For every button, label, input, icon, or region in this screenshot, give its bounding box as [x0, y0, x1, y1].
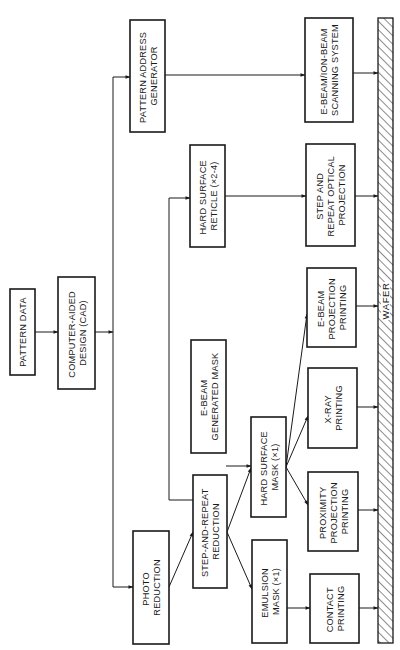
box-hard-surface-mask: HARD SURFACE MASK (×1): [251, 417, 286, 517]
wafer-bar: WAFER: [378, 18, 393, 643]
box-ebeam-ionbeam-scanning-system: E-BEAM/ION-BEAM SCANNING SYSTEM: [305, 18, 353, 122]
arrow-sr-to-hsm: [227, 468, 251, 532]
wafer-label: WAFER: [380, 283, 391, 320]
svg-text:PROXIMITY PROJECTION: PROXIMITY PROJECTION PRINTING: [318, 480, 350, 544]
arrow-sr-to-emulsion: [227, 532, 252, 589]
svg-text:E-BEAM/ION-BEAM SCANNING: E-BEAM/ION-BEAM SCANNING SYSTEM: [319, 24, 340, 116]
box-xray-printing: X-RAY PRINTING: [308, 368, 357, 448]
box-step-and-repeat-reduction: STEP-AND-REPEAT REDUCTION: [193, 475, 227, 588]
svg-text:COMPUTER-AIDED DESIGN (C: COMPUTER-AIDED DESIGN (CAD): [67, 288, 88, 377]
svg-text:CONTACT PRINTING: CONTACT PRINTING: [325, 585, 346, 633]
arrow-hsm-to-ebpp: [286, 314, 307, 467]
box-hard-surface-reticle: HARD SURFACE RETICLE (×2-4): [190, 145, 225, 247]
svg-text:WAFER: WAFER: [380, 283, 391, 320]
svg-text:PATTERN DATA: PATTERN DATA: [18, 297, 28, 367]
svg-text:EMULSION MASK (×1): EMULSION MASK (×1): [260, 565, 281, 617]
box-photo-reduction: PHOTO REDUCTION: [133, 531, 169, 644]
arrow-hsm-to-proximity: [286, 467, 308, 505]
lithography-flow-diagram: PATTERN DATA COMPUTER-AIDED DESIGN (CAD)…: [0, 0, 400, 650]
box-step-repeat-optical-projection: STEP AND REPEAT OPTICAL PROJECTION: [306, 144, 355, 246]
box-emulsion-mask: EMULSION MASK (×1): [252, 540, 287, 643]
svg-text:HARD SURFACE RETICLE (×2: HARD SURFACE RETICLE (×2-4): [198, 157, 219, 234]
box-cad: COMPUTER-AIDED DESIGN (CAD): [58, 277, 95, 389]
arrow-photo-to-sr: [169, 532, 193, 587]
box-pattern-address-generator: PATTERN ADDRESS GENERATOR: [130, 20, 165, 132]
box-ebeam-projection-printing: E-BEAM PROJECTION PRINTING: [307, 268, 356, 347]
box-ebeam-generated-mask: E-BEAM GENERATED MASK: [191, 340, 226, 453]
box-proximity-projection-printing: PROXIMITY PROJECTION PRINTING: [308, 472, 358, 551]
box-label: PATTERN DATA: [18, 297, 28, 367]
box-contact-printing: CONTACT PRINTING: [310, 574, 359, 643]
box-pattern-data: PATTERN DATA: [10, 289, 35, 375]
